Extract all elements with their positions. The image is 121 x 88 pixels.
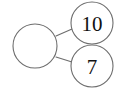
connector-whole-to-part-1 xyxy=(56,29,72,36)
part-value-2: 7 xyxy=(87,55,98,79)
connector-whole-to-part-2 xyxy=(56,57,72,62)
number-bond-diagram: 10 7 xyxy=(0,0,121,88)
part-value-1: 10 xyxy=(82,12,103,36)
number-bond-canvas: 10 7 xyxy=(0,0,121,88)
whole-circle[interactable] xyxy=(13,24,57,68)
